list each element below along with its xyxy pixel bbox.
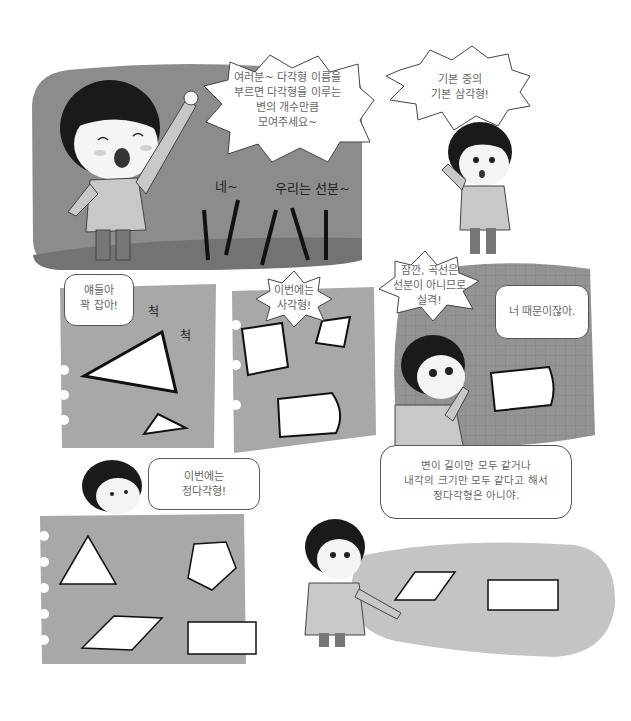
speech-bubble-6-text: 이번에는 정다각형! — [149, 459, 259, 499]
girl-peeking-illustration — [82, 460, 142, 514]
speech-bubble-2-text: 기본 중의 기본 삼각형! — [400, 72, 520, 102]
speech-bubble-1-text: 여러분~ 다각형 이름을 부르면 다각형을 이루는 변의 개수만큼 모여주세요~ — [210, 70, 365, 130]
sfx-ne: 네~ — [215, 176, 238, 195]
panel-4: 이번에는 사각형! — [228, 285, 378, 455]
grass-field — [351, 543, 615, 657]
speech-bubble-3-text: 얘들아 꽉 잡아! — [65, 275, 133, 313]
curved-shape — [491, 367, 554, 411]
panel-3: 얘들아 꽉 잡아! 척 척 — [58, 270, 218, 450]
panel-6: 이번에는 정다각형! — [30, 450, 260, 680]
speech-bubble-5a-text: 잠깐, 곡선은 선분이 아니므로 실격! — [377, 263, 482, 308]
rectangle — [488, 580, 558, 610]
speech-bubble-6: 이번에는 정다각형! — [148, 458, 260, 510]
sfx-we-are-segments: 우리는 선분~ — [275, 178, 350, 197]
quadrilateral-1 — [242, 323, 288, 375]
curved-shape — [278, 393, 340, 437]
panel-2: 기본 중의 기본 삼각형! — [380, 40, 600, 260]
rectangle — [188, 622, 256, 654]
sfx-cheok-2: 척 — [180, 326, 191, 343]
speech-bubble-4-text: 이번에는 사각형! — [254, 283, 334, 313]
panel-5: 잠깐, 곡선은 선분이 아니므로 실격! 너 때문이잖아. — [385, 255, 600, 455]
speech-bubble-5a: 잠깐, 곡선은 선분이 아니므로 실격! — [377, 251, 482, 323]
panel-7: 변이 길이만 모두 같거나 내각의 크기만 모두 같다고 해서 정다각형은 아니… — [255, 445, 625, 705]
speech-bubble-5b: 너 때문이잖아. — [495, 285, 589, 339]
sfx-cheok-1: 척 — [148, 302, 159, 319]
speech-bubble-4: 이번에는 사각형! — [254, 271, 334, 327]
speech-bubble-7-text: 변이 길이만 모두 같거나 내각의 크기만 모두 같다고 해서 정다각형은 아니… — [381, 446, 571, 503]
speech-bubble-1: 여러분~ 다각형 이름을 부르면 다각형을 이루는 변의 개수만큼 모여주세요~ — [200, 50, 375, 165]
speech-bubble-3: 얘들아 꽉 잡아! — [64, 274, 134, 326]
girl-thinking-illustration — [442, 122, 512, 254]
speech-bubble-7: 변이 길이만 모두 같거나 내각의 크기만 모두 같다고 해서 정다각형은 아니… — [380, 445, 572, 519]
speech-bubble-5b-text: 너 때문이잖아. — [496, 286, 588, 319]
